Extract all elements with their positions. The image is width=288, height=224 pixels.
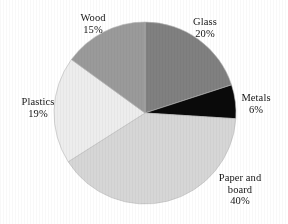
pie-label-wood: Wood 15% xyxy=(64,12,122,35)
pie-chart-figure: Glass 20% Metals 6% Paper and board 40% … xyxy=(0,0,288,224)
pie-label-metals: Metals 6% xyxy=(228,92,284,115)
pie-label-paper-and-board: Paper and board 40% xyxy=(200,172,280,207)
pie-label-glass: Glass 20% xyxy=(176,16,234,39)
pie-label-plastics: Plastics 19% xyxy=(6,96,70,119)
